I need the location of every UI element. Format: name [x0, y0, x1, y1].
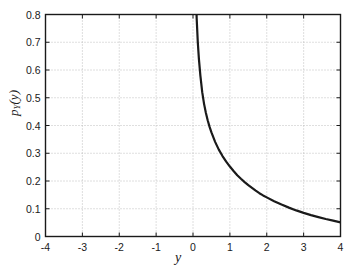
plot-canvas [0, 0, 356, 274]
y-tick-label: 0.6 [26, 64, 41, 76]
y-axis-label: pY(y) [6, 73, 22, 133]
x-tick-label: 4 [338, 241, 344, 253]
figure-container: pY(y) y 00.10.20.30.40.50.60.70.8-4-3-2-… [0, 0, 356, 274]
y-tick-label: 0.2 [26, 175, 41, 187]
x-tick-label: 2 [264, 241, 270, 253]
x-tick-label: 1 [227, 241, 233, 253]
y-tick-label: 0.3 [26, 147, 41, 159]
x-tick-label: -2 [115, 241, 124, 253]
y-axis-label-p: p [6, 109, 21, 116]
y-tick-label: 0.1 [26, 203, 41, 215]
x-tick-label: -1 [151, 241, 160, 253]
y-tick-label: 0.5 [26, 92, 41, 104]
x-tick-label: -4 [41, 241, 50, 253]
y-tick-label: 0 [35, 231, 41, 243]
y-tick-label: 0.8 [26, 9, 41, 21]
y-tick-label: 0.4 [26, 120, 41, 132]
y-axis-label-arg: (y) [6, 90, 21, 104]
y-tick-label: 0.7 [26, 36, 41, 48]
y-axis-label-subscript: Y [12, 104, 22, 109]
x-tick-label: 3 [301, 241, 307, 253]
x-tick-label: 0 [190, 241, 196, 253]
x-tick-label: -3 [78, 241, 87, 253]
